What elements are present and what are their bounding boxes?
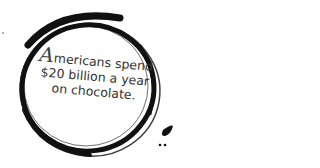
ink-drop-icon: [159, 126, 173, 147]
